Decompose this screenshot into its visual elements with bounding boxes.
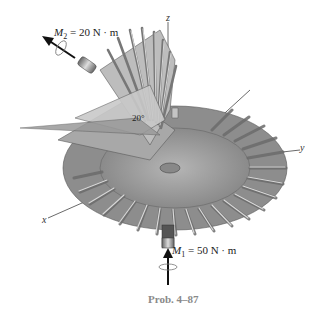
figure-caption: Prob. 4–87 [148,293,199,305]
small-bevel-gear [58,28,176,160]
moment-m1-label: M1 = 50 N · m [172,244,236,259]
y-axis-label: y [300,142,304,153]
angle-label: 20° [132,113,145,123]
moment-m2-subscript: 2 [63,32,67,41]
x-axis-label: x [42,214,46,225]
moment-m1-subscript: 1 [181,250,185,259]
moment-m2-label: M2 = 20 N · m [54,26,118,41]
moment-m2-value: = 20 N · m [70,26,118,38]
moment-m1-value: = 50 N · m [188,244,236,256]
z-axis-label: z [166,12,170,23]
bevel-gear-diagram [0,0,326,322]
moment-m2-symbol: M [54,26,63,38]
small-gear-shaft [77,56,97,75]
moment-m1-symbol: M [172,244,181,256]
